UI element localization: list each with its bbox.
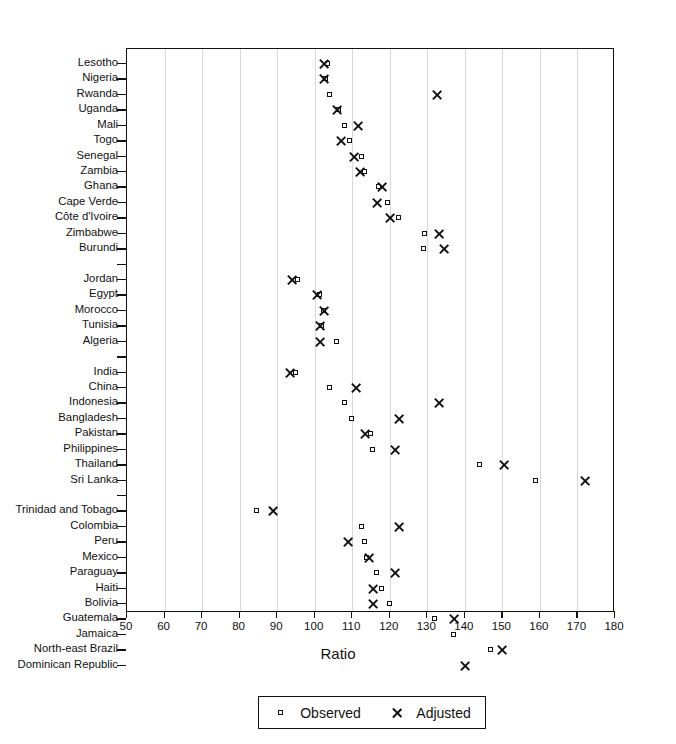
y-tick xyxy=(117,495,126,496)
adjusted-marker xyxy=(334,134,348,148)
observed-marker xyxy=(533,478,538,483)
x-tick xyxy=(126,611,127,618)
observed-marker xyxy=(254,508,259,513)
y-tick xyxy=(117,402,126,403)
legend-label-adjusted: Adjusted xyxy=(416,705,470,721)
x-tick-label: 90 xyxy=(256,620,296,632)
adjusted-marker xyxy=(366,597,380,611)
observed-marker xyxy=(342,400,347,405)
y-tick xyxy=(117,233,126,234)
y-axis-label: Guatemala xyxy=(0,611,118,623)
y-axis-label: Colombia xyxy=(0,519,118,531)
x-tick-label: 60 xyxy=(144,620,184,632)
observed-marker xyxy=(385,200,390,205)
y-tick xyxy=(117,510,126,511)
y-axis-label: Bolivia xyxy=(0,596,118,608)
y-tick xyxy=(117,418,126,419)
x-axis-line xyxy=(126,611,614,612)
y-axis-label: Thailand xyxy=(0,457,118,469)
x-tick xyxy=(464,611,465,618)
adjusted-marker xyxy=(375,180,389,194)
adjusted-marker xyxy=(388,566,402,580)
gridline xyxy=(465,49,466,612)
x-tick xyxy=(201,611,202,618)
observed-square-icon xyxy=(273,705,289,721)
x-tick-label: 130 xyxy=(406,620,446,632)
y-tick xyxy=(117,372,126,373)
y-axis-label: Jordan xyxy=(0,272,118,284)
x-tick xyxy=(576,611,577,618)
y-tick xyxy=(117,356,126,357)
observed-marker xyxy=(347,138,352,143)
y-tick xyxy=(117,588,126,589)
x-tick-label: 180 xyxy=(594,620,634,632)
x-tick-label: 160 xyxy=(519,620,559,632)
adjusted-marker xyxy=(366,582,380,596)
y-axis-label: Algeria xyxy=(0,334,118,346)
adjusted-marker xyxy=(358,427,372,441)
y-axis-label: India xyxy=(0,365,118,377)
x-tick xyxy=(164,611,165,618)
y-axis-label: Indonesia xyxy=(0,395,118,407)
gridline xyxy=(390,49,391,612)
x-tick xyxy=(351,611,352,618)
observed-marker xyxy=(362,539,367,544)
legend-label-observed: Observed xyxy=(300,705,361,721)
y-tick xyxy=(117,125,126,126)
x-tick-label: 170 xyxy=(556,620,596,632)
adjusted-marker xyxy=(285,273,299,287)
adjusted-marker xyxy=(392,520,406,534)
x-tick xyxy=(389,611,390,618)
adjusted-marker xyxy=(313,335,327,349)
observed-marker xyxy=(327,385,332,390)
x-tick-label: 80 xyxy=(219,620,259,632)
y-tick xyxy=(117,279,126,280)
legend-item-adjusted: Adjusted xyxy=(389,705,470,721)
y-tick xyxy=(117,310,126,311)
x-tick xyxy=(239,611,240,618)
adjusted-marker xyxy=(432,227,446,241)
adjusted-marker xyxy=(392,412,406,426)
x-tick xyxy=(539,611,540,618)
observed-marker xyxy=(421,246,426,251)
x-tick xyxy=(426,611,427,618)
y-tick xyxy=(117,217,126,218)
observed-marker xyxy=(387,601,392,606)
y-axis-label: Rwanda xyxy=(0,87,118,99)
y-axis-label: Trinidad and Tobago xyxy=(0,503,118,515)
y-tick xyxy=(117,480,126,481)
adjusted-marker xyxy=(388,443,402,457)
adjusted-marker xyxy=(349,381,363,395)
y-tick xyxy=(117,449,126,450)
y-tick xyxy=(117,526,126,527)
y-tick xyxy=(117,572,126,573)
y-axis-label: Cape Verde xyxy=(0,195,118,207)
y-tick xyxy=(117,109,126,110)
y-axis-label: Uganda xyxy=(0,102,118,114)
x-tick-label: 110 xyxy=(331,620,371,632)
x-tick xyxy=(276,611,277,618)
adjusted-marker xyxy=(347,150,361,164)
y-axis-label: Peru xyxy=(0,534,118,546)
observed-marker xyxy=(451,632,456,637)
adjusted-marker xyxy=(317,57,331,71)
observed-marker xyxy=(327,92,332,97)
gridline xyxy=(577,49,578,612)
x-axis-title: Ratio xyxy=(0,645,676,662)
y-axis-label: Côte d'Ivoire xyxy=(0,210,118,222)
gridline xyxy=(352,49,353,612)
gridline xyxy=(427,49,428,612)
x-tick-label: 70 xyxy=(181,620,221,632)
adjusted-marker xyxy=(362,551,376,565)
y-axis-label: Zimbabwe xyxy=(0,226,118,238)
chart-root: LesothoNigeriaRwandaUgandaMaliTogoSenega… xyxy=(0,0,676,744)
x-tick xyxy=(501,611,502,618)
observed-marker xyxy=(422,231,427,236)
y-tick xyxy=(117,171,126,172)
y-tick xyxy=(117,186,126,187)
y-tick xyxy=(117,387,126,388)
adjusted-marker xyxy=(283,366,297,380)
y-tick xyxy=(117,603,126,604)
observed-marker xyxy=(334,339,339,344)
legend-item-observed: Observed xyxy=(273,705,361,721)
